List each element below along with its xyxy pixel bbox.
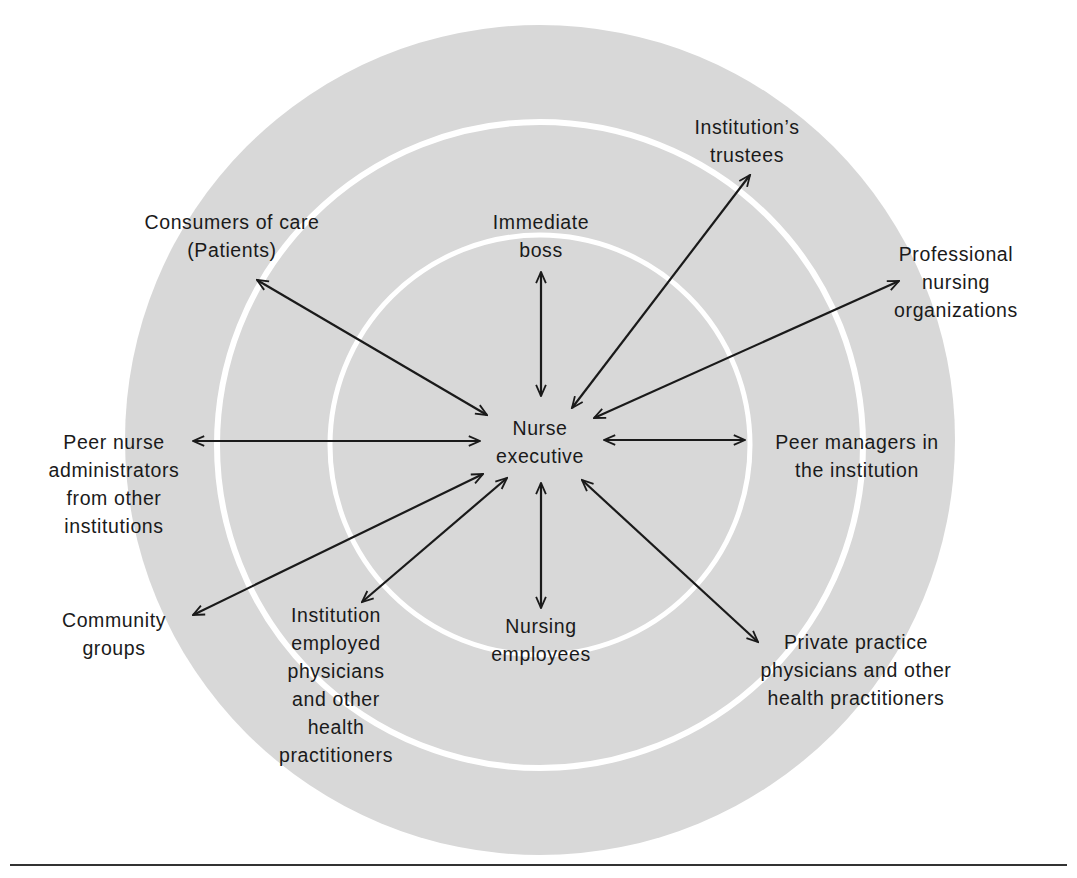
center-label-nurse-executive: Nurse executive (496, 414, 584, 470)
node-private-practice-physicians: Private practice physicians and other he… (761, 628, 952, 712)
node-nursing-employees: Nursing employees (491, 612, 591, 668)
node-peer-managers: Peer managers in the institution (775, 428, 939, 484)
bottom-rule-divider (10, 864, 1067, 866)
node-professional-nursing-organizations: Professional nursing organizations (894, 240, 1018, 324)
node-community-groups: Community groups (62, 606, 166, 662)
node-immediate-boss: Immediate boss (493, 208, 589, 264)
node-institution-employed-physicians: Institution employed physicians and othe… (279, 601, 393, 769)
node-consumers-of-care: Consumers of care (Patients) (145, 208, 320, 264)
node-institutions-trustees: Institution’s trustees (695, 113, 800, 169)
node-peer-nurse-administrators: Peer nurse administrators from other ins… (49, 428, 180, 540)
